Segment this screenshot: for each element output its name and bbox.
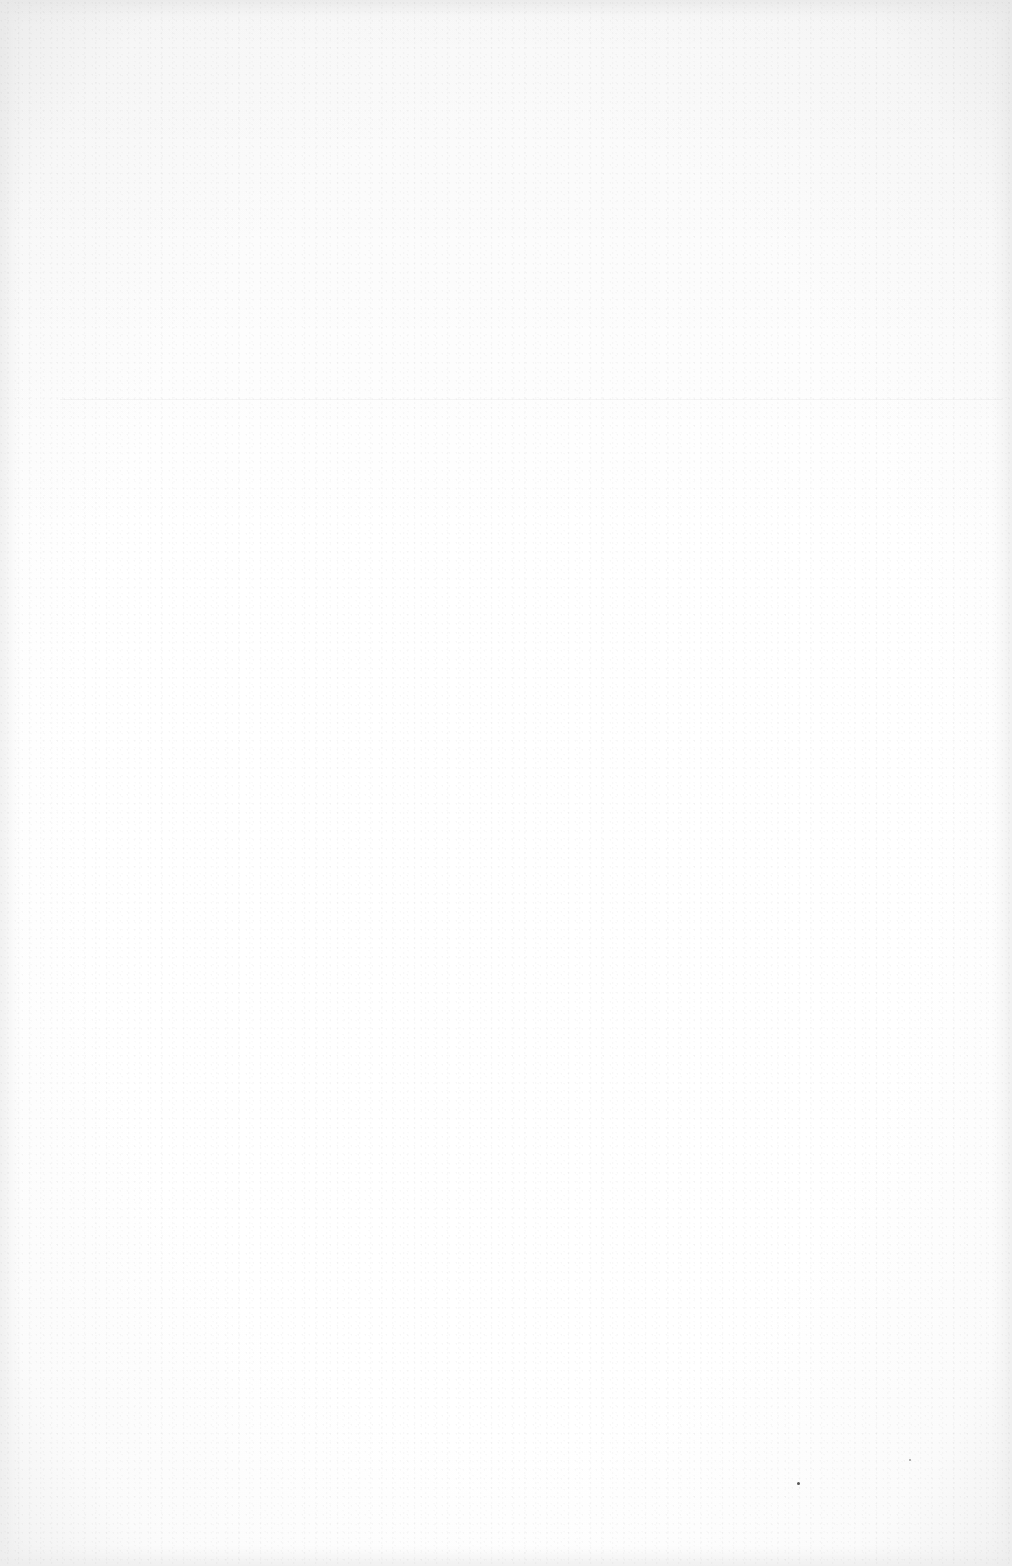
blank-scanned-page <box>0 0 1012 1566</box>
paper-grain <box>0 0 1012 1566</box>
dust-speck <box>797 1482 800 1485</box>
faint-fold-line <box>60 399 1002 400</box>
dust-speck <box>909 1459 911 1461</box>
